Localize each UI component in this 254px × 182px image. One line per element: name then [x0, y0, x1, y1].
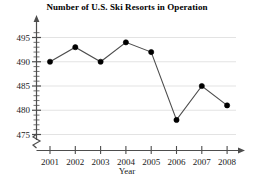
data-point-marker — [174, 117, 179, 122]
data-point-marker — [199, 83, 204, 88]
data-line — [50, 42, 227, 120]
y-tick-label: 490 — [17, 57, 31, 67]
data-point-marker — [98, 59, 103, 64]
x-axis-title: Year — [0, 166, 254, 176]
line-chart-plot: 475480485490495 200120022003200420052006… — [0, 0, 254, 182]
data-point-marker — [149, 49, 154, 54]
y-tick-label: 480 — [17, 105, 31, 115]
data-point-marker — [73, 45, 78, 50]
y-tick-label: 495 — [17, 33, 31, 43]
data-point-marker — [123, 40, 128, 45]
x-axis-line — [37, 148, 246, 154]
y-axis-tick-labels: 475480485490495 — [17, 33, 31, 140]
y-tick-label: 475 — [17, 130, 31, 140]
data-point-marker — [225, 103, 230, 108]
data-point-marker — [47, 59, 52, 64]
y-tick-label: 485 — [17, 81, 31, 91]
y-axis-line — [34, 15, 40, 140]
chart-figure: Number of U.S. Ski Resorts in Operation … — [0, 0, 254, 182]
